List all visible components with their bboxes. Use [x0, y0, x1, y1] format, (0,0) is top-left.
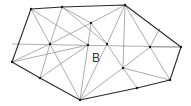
mesh-edge — [62, 7, 107, 44]
mesh-edge — [88, 23, 91, 45]
mesh-edge — [150, 47, 170, 80]
vertex-point — [49, 43, 51, 45]
vertex-point — [30, 8, 32, 10]
vertex-point — [122, 67, 124, 69]
vertex-point — [169, 79, 171, 81]
region-label: B — [92, 51, 100, 65]
vertex-point — [87, 44, 89, 46]
triangulation-diagram: B — [0, 0, 191, 106]
mesh-edge — [40, 45, 88, 78]
mesh-edge — [12, 44, 181, 47]
vertex-point — [149, 46, 151, 48]
mesh-edge — [40, 44, 50, 78]
mesh-edge — [107, 5, 125, 44]
vertex-point — [39, 77, 41, 79]
mesh-edge — [150, 28, 160, 47]
mesh-edge — [31, 9, 50, 44]
vertex-point — [11, 61, 13, 63]
mesh-edge — [62, 7, 91, 23]
vertex-point — [79, 99, 81, 101]
mesh-edge — [107, 44, 123, 68]
vertex-point — [124, 4, 126, 6]
mesh-edge — [91, 5, 125, 23]
vertex-point — [90, 22, 92, 24]
mesh-edge — [12, 45, 88, 62]
mesh-edge — [123, 5, 125, 68]
vertex-point — [180, 46, 182, 48]
mesh-edge — [123, 47, 150, 68]
mesh-edge — [91, 23, 107, 44]
vertex-point — [61, 6, 63, 8]
mesh-edge — [125, 5, 150, 47]
vertex-point — [136, 87, 138, 89]
vertex-point — [106, 43, 108, 45]
